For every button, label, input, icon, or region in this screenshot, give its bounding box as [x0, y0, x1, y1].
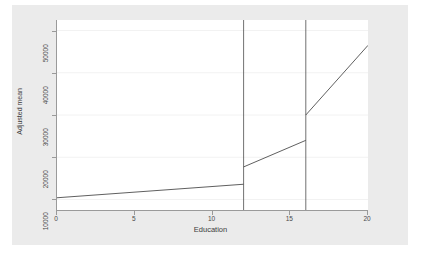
line-segment-12-to-16 — [244, 140, 306, 167]
chart-page: Adjusted mean 1000020000300004000050000 … — [0, 0, 421, 256]
plot-canvas — [57, 20, 368, 210]
y-tick-label-40000: 40000 — [43, 72, 50, 118]
x-tick-label-10: 10 — [197, 216, 227, 223]
x-tick-label-20: 20 — [352, 216, 382, 223]
y-tick-label-30000: 30000 — [43, 114, 50, 160]
y-tick-label-20000: 20000 — [43, 156, 50, 202]
series-lines — [57, 45, 368, 197]
x-axis-title: Education — [0, 226, 421, 234]
plot-area — [56, 20, 368, 211]
x-tick-label-5: 5 — [119, 216, 149, 223]
y-axis-title: Adjusted mean — [16, 88, 23, 135]
line-segment-16-to-20 — [306, 45, 368, 115]
x-tick-label-15: 15 — [274, 216, 304, 223]
x-tick-label-0: 0 — [41, 216, 71, 223]
line-segment-below-12 — [57, 184, 244, 198]
gridlines — [57, 31, 368, 200]
y-tick-label-50000: 50000 — [43, 30, 50, 76]
